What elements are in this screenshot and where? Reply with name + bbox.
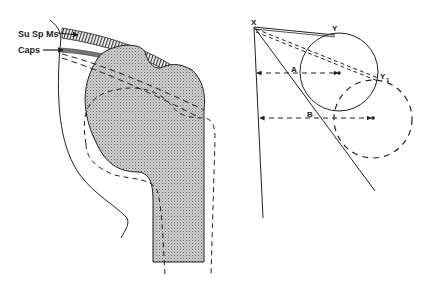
shoulder-diagram: Su Sp Ms Caps: [18, 20, 215, 275]
label-y1-subscript: 1: [386, 77, 390, 83]
label-x: X: [251, 18, 257, 27]
diagonal-line: [254, 27, 375, 191]
label-b: B: [307, 110, 313, 119]
label-a: A: [291, 65, 297, 74]
center-point-a: [337, 71, 341, 75]
center-point-b: [371, 116, 375, 120]
diagram-canvas: Su Sp Ms Caps X Y Y 1 A B: [0, 0, 429, 291]
dashed-line-y1: [256, 29, 378, 78]
humerus: [85, 45, 204, 262]
label-capsule: Caps: [18, 45, 40, 55]
label-supraspinatus: Su Sp Ms: [18, 29, 59, 39]
vertical-line: [254, 27, 263, 218]
tangent-line-y: [254, 27, 335, 35]
label-y: Y: [332, 24, 338, 33]
geometry-diagram: X Y Y 1 A B: [251, 18, 412, 218]
